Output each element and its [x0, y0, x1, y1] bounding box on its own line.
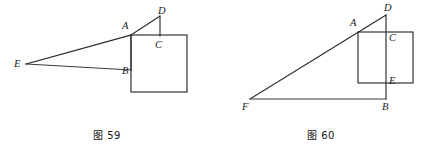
vertex-label-B: B — [122, 66, 128, 77]
vertex-label-A: A — [122, 21, 128, 32]
vertex-label-B: B — [382, 102, 388, 113]
segment-E-to-B — [26, 64, 131, 70]
vertex-label-D: D — [384, 3, 392, 14]
vertex-label-E: E — [14, 59, 20, 70]
vertex-label-C: C — [389, 33, 396, 44]
vertex-label-F: F — [242, 102, 248, 113]
figure-60-geometry — [214, 0, 428, 112]
figure-panel-60: F B D A C E 图 60 — [214, 0, 428, 150]
figure-sheet: E A D C B 图 59 F B D A C E 图 60 — [0, 0, 428, 150]
segment-E-to-A — [26, 35, 131, 64]
vertex-label-C: C — [155, 40, 162, 51]
vertex-label-E: E — [389, 76, 395, 87]
figure-caption-59: 图 59 — [0, 127, 214, 142]
vertex-label-D: D — [158, 6, 166, 17]
figure-panel-59: E A D C B 图 59 — [0, 0, 214, 150]
figure-caption-60: 图 60 — [214, 127, 428, 142]
vertex-label-A: A — [350, 18, 356, 29]
figure-59-geometry — [0, 0, 214, 112]
segment-A-to-D — [131, 16, 160, 35]
segment-F-to-D — [250, 15, 386, 99]
